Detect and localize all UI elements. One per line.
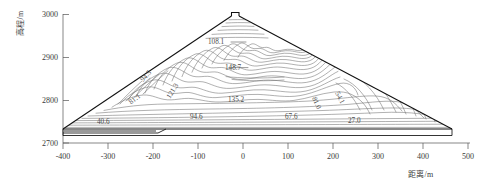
x-tick-400: 400: [417, 152, 429, 161]
y-axis-label: 高程/m: [14, 0, 25, 36]
y-tick-2700: 2700: [42, 139, 58, 148]
contour-label-94-6: 94.6: [190, 113, 203, 121]
x-tick-labels: -400 -300 -200 -100 0 100 200 300 400 50…: [56, 152, 474, 161]
x-tick-300: 300: [372, 152, 384, 161]
contour-label-121-3: 121.3: [165, 82, 181, 100]
y-tick-2800: 2800: [42, 96, 58, 105]
contour-label-148-7: 148.7: [225, 64, 242, 72]
x-tick-0: 0: [241, 152, 245, 161]
x-tick-neg400: -400: [56, 152, 71, 161]
x-tick-neg300: -300: [101, 152, 116, 161]
y-axis-ticks: [63, 15, 69, 144]
contour-label-67-6: 67.6: [285, 113, 298, 121]
contour-plot-figure: 108.1 148.7 135.2 121.3 94.5 81.1 94.6 6…: [0, 0, 484, 184]
contour-label-108-1: 108.1: [208, 38, 225, 46]
x-tick-100: 100: [282, 152, 294, 161]
x-axis-label: 距离/m: [408, 168, 434, 179]
x-axis-ticks: [63, 143, 468, 149]
x-tick-500: 500: [462, 152, 474, 161]
contour-label-40-6: 40.6: [97, 118, 110, 126]
x-tick-200: 200: [327, 152, 339, 161]
toe-drain-wedge: [63, 129, 452, 136]
x-tick-neg200: -200: [146, 152, 161, 161]
contour-label-81-1: 81.1: [127, 92, 142, 106]
y-tick-2900: 2900: [42, 53, 58, 62]
x-tick-neg100: -100: [191, 152, 206, 161]
contour-label-135-2: 135.2: [228, 96, 245, 104]
y-tick-labels: 3000 2900 2800 2700: [42, 10, 58, 148]
y-tick-3000: 3000: [42, 10, 58, 19]
contour-plot-svg: 108.1 148.7 135.2 121.3 94.5 81.1 94.6 6…: [0, 0, 484, 184]
contour-label-27-0: 27.0: [348, 117, 361, 125]
contour-label-81-0: 81.0: [310, 96, 323, 111]
axis-lines: [63, 14, 470, 143]
contour-lines-group: [64, 20, 452, 128]
